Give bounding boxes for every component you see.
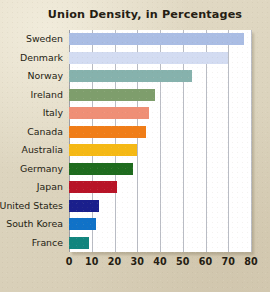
- xtick-label-40: 40: [153, 256, 166, 267]
- category-label-ireland: Ireland: [31, 90, 63, 99]
- category-label-germany: Germany: [20, 164, 63, 173]
- xtick-label-60: 60: [199, 256, 212, 267]
- bar-row: [69, 126, 251, 138]
- bar-australia: [69, 144, 137, 156]
- category-label-south-korea: South Korea: [6, 219, 63, 228]
- bar-row: [69, 70, 251, 82]
- bar-ireland: [69, 89, 155, 101]
- bars-layer: [69, 30, 251, 252]
- bar-italy: [69, 107, 149, 119]
- xtick-label-70: 70: [222, 256, 235, 267]
- bar-row: [69, 218, 251, 230]
- xtick-label-10: 10: [85, 256, 98, 267]
- category-label-australia: Australia: [22, 145, 63, 154]
- xtick-label-0: 0: [66, 256, 73, 267]
- bar-row: [69, 200, 251, 212]
- bar-row: [69, 237, 251, 249]
- bar-row: [69, 107, 251, 119]
- chart-title: Union Density, in Percentages: [0, 8, 270, 21]
- bar-canada: [69, 126, 146, 138]
- bar-row: [69, 144, 251, 156]
- bar-row: [69, 163, 251, 175]
- xtick-label-20: 20: [108, 256, 121, 267]
- bar-row: [69, 181, 251, 193]
- category-label-italy: Italy: [43, 108, 63, 117]
- xtick-label-80: 80: [244, 256, 257, 267]
- xtick-label-30: 30: [131, 256, 144, 267]
- bar-denmark: [69, 52, 228, 64]
- xtick-label-50: 50: [176, 256, 189, 267]
- bar-row: [69, 89, 251, 101]
- bar-row: [69, 33, 251, 45]
- plot-area: [69, 30, 251, 252]
- bar-row: [69, 52, 251, 64]
- bar-france: [69, 237, 89, 249]
- bar-united-states: [69, 200, 99, 212]
- bar-japan: [69, 181, 117, 193]
- bar-south-korea: [69, 218, 96, 230]
- chart-figure: Union Density, in Percentages SwedenDenm…: [0, 0, 270, 292]
- category-label-denmark: Denmark: [20, 53, 63, 62]
- category-label-canada: Canada: [27, 127, 63, 136]
- x-axis-tick-labels: 01020304050607080: [69, 256, 251, 272]
- category-label-japan: Japan: [37, 182, 63, 191]
- category-label-united-states: United States: [0, 201, 63, 210]
- bar-norway: [69, 70, 192, 82]
- category-label-france: France: [32, 238, 63, 247]
- category-axis-labels: SwedenDenmarkNorwayIrelandItalyCanadaAus…: [0, 30, 66, 252]
- category-label-norway: Norway: [27, 71, 63, 80]
- bar-sweden: [69, 33, 244, 45]
- bar-germany: [69, 163, 133, 175]
- category-label-sweden: Sweden: [26, 34, 63, 43]
